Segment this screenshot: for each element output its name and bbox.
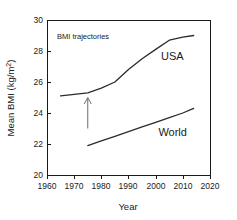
- chart-svg: 20 22 24 26 28 30 1960 1970 1980 1990 20…: [0, 0, 237, 220]
- y-ticks: [47, 20, 51, 175]
- x-axis-title: Year: [118, 201, 137, 212]
- y-tick-label-0: 20: [34, 170, 44, 180]
- y-tick-label-2: 24: [34, 108, 44, 118]
- series-line-usa: [61, 36, 194, 96]
- arrow-up-annotation-icon: [84, 98, 91, 129]
- x-tick-labels: 1960 1970 1980 1990 2000 2010 2020: [38, 181, 220, 191]
- x-tick-label-5: 2010: [174, 181, 193, 191]
- x-tick-label-2: 1980: [92, 181, 111, 191]
- y-tick-labels: 20 22 24 26 28 30: [34, 15, 44, 180]
- y-tick-label-3: 26: [34, 77, 44, 87]
- x-tick-label-4: 2000: [147, 181, 166, 191]
- x-tick-label-1: 1970: [65, 181, 84, 191]
- series-label-world: World: [158, 126, 187, 138]
- axes: [47, 20, 210, 175]
- x-tick-label-0: 1960: [38, 181, 57, 191]
- x-ticks: [47, 175, 210, 179]
- bmi-trajectories-chart: 20 22 24 26 28 30 1960 1970 1980 1990 20…: [0, 0, 237, 220]
- x-tick-label-6: 2020: [201, 181, 220, 191]
- x-tick-label-3: 1990: [119, 181, 138, 191]
- series-label-usa: USA: [161, 50, 184, 62]
- y-axis-title-group: Mean BMI (kg/m2): [5, 60, 16, 137]
- y-axis-title-main: Mean BMI (kg/m: [5, 67, 16, 137]
- y-axis-title-tail: ): [5, 60, 16, 63]
- y-tick-label-1: 22: [34, 139, 44, 149]
- y-axis-title: Mean BMI (kg/m2): [5, 60, 16, 137]
- y-tick-label-5: 30: [34, 15, 44, 25]
- y-tick-label-4: 28: [34, 46, 44, 56]
- chart-annotation-text: BMI trajectories: [57, 32, 109, 41]
